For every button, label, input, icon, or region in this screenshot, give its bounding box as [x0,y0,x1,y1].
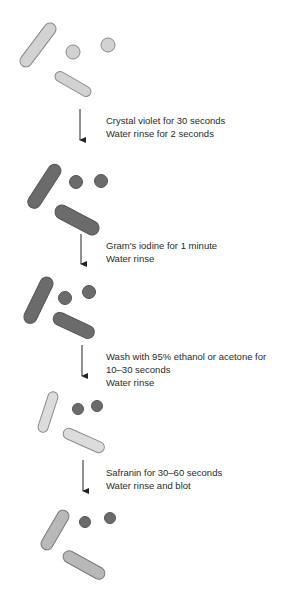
step-4-line-1: Safranin for 30–60 seconds [106,466,222,479]
coccus-bacterium-icon [59,292,72,305]
step-3-label: Wash with 95% ethanol or acetone for 10–… [106,350,266,389]
rod-bacterium-icon [61,426,106,454]
stage-unstained-cells [18,21,115,99]
step-3-line-1: Wash with 95% ethanol or acetone for [106,350,266,363]
rod-bacterium-icon [22,275,56,326]
step-4-label: Safranin for 30–60 seconds Water rinse a… [106,466,222,492]
coccus-bacterium-icon [95,175,108,188]
rod-bacterium-icon [51,310,96,340]
stage-after-crystal-violet [25,162,107,238]
step-2-label: Gram's iodine for 1 minute Water rinse [106,239,217,265]
stage-after-iodine [22,275,97,341]
stage-after-decolorization [37,390,106,454]
step-3-line-2: 10–30 seconds [106,363,266,376]
step-1-line-2: Water rinse for 2 seconds [106,127,225,140]
coccus-bacterium-icon [105,513,116,524]
step-1-line-1: Crystal violet for 30 seconds [106,114,225,127]
rod-bacterium-icon [61,549,107,582]
step-2-line-1: Gram's iodine for 1 minute [106,239,217,252]
step-2-line-2: Water rinse [106,252,217,265]
coccus-bacterium-icon [66,45,80,59]
coccus-bacterium-icon [80,517,91,528]
coccus-bacterium-icon [92,401,103,412]
rod-bacterium-icon [53,70,93,99]
coccus-bacterium-icon [101,38,115,52]
rod-bacterium-icon [18,21,59,70]
step-3-line-3: Water rinse [106,376,266,389]
coccus-bacterium-icon [73,404,84,415]
step-1-label: Crystal violet for 30 seconds Water rins… [106,114,225,140]
stage-after-safranin [39,508,116,581]
coccus-bacterium-icon [83,286,96,299]
gram-stain-diagram [0,0,285,592]
rod-bacterium-icon [39,508,71,552]
rod-bacterium-icon [25,162,63,211]
rod-bacterium-icon [37,390,59,433]
step-4-line-2: Water rinse and blot [106,479,222,492]
coccus-bacterium-icon [70,176,83,189]
rod-bacterium-icon [53,203,102,238]
